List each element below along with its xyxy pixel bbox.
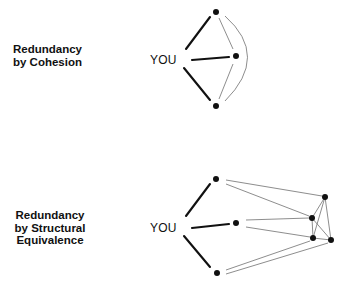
cluster-tie-a-b xyxy=(312,197,325,218)
strong-tie-middle xyxy=(192,57,229,60)
cluster-tie-b-c xyxy=(312,218,313,238)
weak-tie-bottom-to-cluster-d xyxy=(226,243,328,274)
network-graphs xyxy=(0,0,339,281)
cluster-node-b xyxy=(309,215,315,221)
cluster-node-a xyxy=(322,194,328,200)
cluster-node-d xyxy=(328,237,334,243)
strong-tie-top xyxy=(186,184,210,216)
strong-tie-bottom xyxy=(184,236,210,267)
weak-tie-middle-to-cluster-c xyxy=(246,227,310,237)
redundancy-diagram-figure: Redundancy by Cohesion YOU Redundancy by… xyxy=(0,0,339,281)
strong-tie-bottom xyxy=(184,68,210,100)
contact-node-bottom xyxy=(213,103,219,109)
strong-tie-middle xyxy=(192,224,229,228)
weak-tie-top-to-cluster-b xyxy=(226,184,309,216)
contact-node-middle xyxy=(233,220,239,226)
weak-tie-top-middle xyxy=(219,18,233,49)
structural-equivalence-network xyxy=(184,176,334,276)
contact-node-middle xyxy=(233,53,239,59)
weak-tie-bottom-to-cluster-c xyxy=(226,241,310,270)
cohesion-network xyxy=(184,9,248,109)
weak-tie-middle-bottom xyxy=(219,64,233,99)
contact-node-top xyxy=(213,176,219,182)
contact-node-bottom xyxy=(214,270,220,276)
cluster-node-c xyxy=(310,235,316,241)
strong-tie-top xyxy=(186,17,210,49)
weak-tie-middle-to-cluster-b xyxy=(246,218,309,220)
weak-tie-top-to-cluster-a xyxy=(226,180,322,196)
contact-node-top xyxy=(213,9,219,15)
